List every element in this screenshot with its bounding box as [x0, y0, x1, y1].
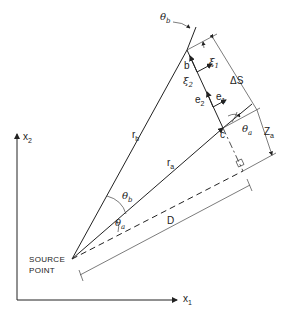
normal-extension: [223, 128, 243, 171]
theta-a-c-label: θa: [242, 123, 252, 137]
delta-s-label: ΔS: [230, 75, 244, 86]
x1-label: x1: [183, 293, 192, 306]
rb-label: rb: [132, 129, 139, 142]
d-label: D: [167, 215, 174, 226]
e1-label: e1: [216, 91, 226, 104]
theta-b-src-label: θb: [122, 190, 133, 204]
theta-a-src-label: θa: [115, 217, 125, 231]
geometry-diagram: x2 x1 SOURCE POINT rb ra b c θb θb θa θa…: [0, 0, 289, 320]
b-normal-tick: [187, 34, 217, 50]
x2-label: x2: [23, 131, 32, 144]
xi2-label: ξ2: [183, 75, 194, 89]
source-label-line1: SOURCE: [29, 255, 65, 264]
xi2-vector: [190, 56, 197, 72]
ray-rb-extension: [187, 27, 196, 50]
source-label-line2: POINT: [29, 266, 55, 275]
point-b-label: b: [184, 60, 190, 71]
za-label: Za: [264, 126, 274, 139]
theta-b-top-label: θb: [160, 11, 171, 25]
ra-label: ra: [167, 157, 174, 170]
right-angle-marker: [236, 159, 244, 167]
xi1-label: ξ1: [209, 56, 219, 70]
e2-vector: [207, 92, 213, 107]
e2-label: e2: [195, 94, 205, 107]
za-bottom-tick: [243, 153, 276, 171]
point-c-label: c: [220, 129, 225, 140]
